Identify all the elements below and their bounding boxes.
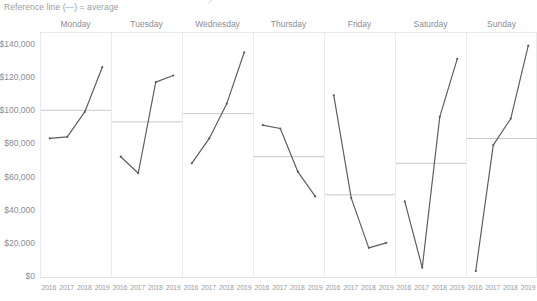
- panel-header-row: MondayTuesdayWednesdayThursdayFridaySatu…: [40, 17, 537, 32]
- reference-line-note: Reference line (—) = average: [4, 2, 119, 12]
- y-tick-label: $40,000: [4, 205, 35, 215]
- x-tick-label: 2017: [129, 284, 147, 298]
- panel-header-thursday: Thursday: [253, 17, 324, 32]
- x-tick-label: 2018: [218, 284, 236, 298]
- series-plot: [325, 33, 395, 277]
- x-axis-labels: 2016201720182019201620172018201920162017…: [40, 284, 537, 298]
- panel-header-wednesday: Wednesday: [182, 17, 253, 32]
- y-tick-label: $80,000: [4, 138, 35, 148]
- x-tick-label: 2016: [324, 284, 342, 298]
- data-point[interactable]: [172, 74, 174, 76]
- data-point[interactable]: [297, 171, 299, 173]
- data-point[interactable]: [137, 172, 139, 174]
- y-tick-label: $0: [26, 271, 35, 281]
- x-tick-label: 2017: [342, 284, 360, 298]
- data-point[interactable]: [120, 156, 122, 158]
- x-tick-label: 2018: [360, 284, 378, 298]
- data-point[interactable]: [49, 137, 51, 139]
- y-tick-label: $120,000: [0, 72, 35, 82]
- y-tick-label: $140,000: [0, 39, 35, 49]
- data-point[interactable]: [262, 124, 264, 126]
- data-point[interactable]: [333, 94, 335, 96]
- panel-header-monday: Monday: [40, 17, 111, 32]
- x-tick-label: 2019: [448, 284, 466, 298]
- series-plot: [396, 33, 466, 277]
- data-point[interactable]: [350, 197, 352, 199]
- data-point[interactable]: [404, 200, 406, 202]
- series-plot: [254, 33, 324, 277]
- y-tick-label: $60,000: [4, 172, 35, 182]
- x-tick-label: 2016: [253, 284, 271, 298]
- x-tick-label: 2019: [164, 284, 182, 298]
- x-tick-label: 2016: [466, 284, 484, 298]
- x-tick-label: 2018: [289, 284, 307, 298]
- x-axis-baseline: [40, 277, 537, 278]
- x-tick-label: 2017: [271, 284, 289, 298]
- y-tick-label: $100,000: [0, 105, 35, 115]
- data-point[interactable]: [421, 267, 423, 269]
- data-point[interactable]: [385, 242, 387, 244]
- panel-header-tuesday: Tuesday: [111, 17, 182, 32]
- facet-panel-friday: [324, 33, 395, 277]
- data-point[interactable]: [510, 117, 512, 119]
- x-tick-group: 2016201720182019: [466, 284, 537, 298]
- chart-root: y Reference line (—) = average MondayTue…: [0, 0, 537, 301]
- data-point[interactable]: [66, 136, 68, 138]
- x-tick-group: 2016201720182019: [395, 284, 466, 298]
- panel-header-friday: Friday: [324, 17, 395, 32]
- panel-header-sunday: Sunday: [466, 17, 537, 32]
- facet-panel-tuesday: [111, 33, 182, 277]
- facet-panel-monday: [40, 33, 111, 277]
- x-tick-label: 2018: [502, 284, 520, 298]
- series-line: [334, 95, 387, 247]
- x-tick-label: 2018: [76, 284, 94, 298]
- series-line: [121, 75, 174, 173]
- x-tick-label: 2017: [200, 284, 218, 298]
- series-line: [50, 67, 103, 138]
- data-point[interactable]: [527, 45, 529, 47]
- x-tick-label: 2019: [306, 284, 324, 298]
- x-tick-label: 2019: [519, 284, 537, 298]
- data-point[interactable]: [226, 103, 228, 105]
- facet-panel-thursday: [253, 33, 324, 277]
- cut-off-title: y: [208, 0, 214, 3]
- data-point[interactable]: [279, 127, 281, 129]
- series-line: [263, 125, 316, 196]
- data-point[interactable]: [101, 66, 103, 68]
- series-plot: [467, 33, 537, 277]
- y-tick-label: $20,000: [4, 238, 35, 248]
- panel-header-saturday: Saturday: [395, 17, 466, 32]
- data-point[interactable]: [155, 81, 157, 83]
- data-point[interactable]: [314, 195, 316, 197]
- data-point[interactable]: [475, 270, 477, 272]
- y-axis-labels: $140,000$120,000$100,000$80,000$60,000$4…: [0, 33, 38, 277]
- series-plot: [112, 33, 182, 277]
- series-line: [476, 46, 529, 271]
- data-point[interactable]: [439, 116, 441, 118]
- x-tick-label: 2016: [111, 284, 129, 298]
- x-tick-label: 2016: [395, 284, 413, 298]
- series-line: [192, 52, 245, 163]
- data-point[interactable]: [368, 247, 370, 249]
- x-tick-label: 2017: [413, 284, 431, 298]
- data-point[interactable]: [456, 58, 458, 60]
- x-tick-label: 2016: [182, 284, 200, 298]
- x-tick-label: 2018: [147, 284, 165, 298]
- x-tick-label: 2018: [431, 284, 449, 298]
- data-point[interactable]: [84, 111, 86, 113]
- x-tick-group: 2016201720182019: [182, 284, 253, 298]
- facet-panel-wednesday: [182, 33, 253, 277]
- x-tick-label: 2019: [93, 284, 111, 298]
- data-point[interactable]: [243, 51, 245, 53]
- data-point[interactable]: [208, 137, 210, 139]
- x-tick-group: 2016201720182019: [253, 284, 324, 298]
- x-tick-label: 2017: [484, 284, 502, 298]
- x-tick-group: 2016201720182019: [324, 284, 395, 298]
- data-point[interactable]: [191, 162, 193, 164]
- data-point[interactable]: [492, 144, 494, 146]
- series-plot: [41, 33, 111, 277]
- x-tick-group: 2016201720182019: [40, 284, 111, 298]
- x-tick-group: 2016201720182019: [111, 284, 182, 298]
- x-tick-label: 2019: [235, 284, 253, 298]
- facet-panel-sunday: [466, 33, 537, 277]
